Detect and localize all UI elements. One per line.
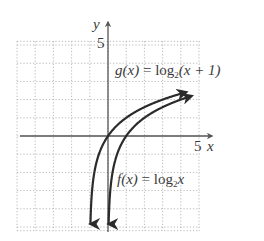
g-function-label: g(x) = log2(x + 1) — [115, 63, 221, 80]
y-tick-5-label: 5 — [97, 36, 105, 51]
x-axis-label: x — [207, 139, 214, 154]
g-lhs: g(x) — [115, 62, 139, 78]
graph-figure: y 5 5 x g(x) = log2(x + 1) f(x) = log2x — [0, 0, 264, 241]
curves — [90, 92, 191, 224]
x-tick-5-label: 5 — [194, 139, 202, 154]
g-arg: (x + 1) — [179, 62, 221, 78]
f-arg: x — [177, 171, 184, 187]
f-lhs: f(x) — [117, 171, 138, 187]
y-axis-label: y — [93, 17, 100, 32]
g-equals: = — [143, 62, 151, 78]
curve-g — [90, 92, 186, 224]
plot-area — [0, 0, 264, 241]
f-equals: = — [142, 171, 150, 187]
f-log: log — [154, 171, 173, 187]
curve-f — [109, 96, 192, 224]
f-function-label: f(x) = log2x — [117, 172, 184, 189]
g-log: log — [155, 62, 174, 78]
